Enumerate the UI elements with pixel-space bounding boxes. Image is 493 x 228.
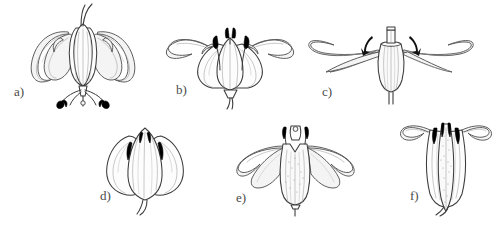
lobe-left [400,126,430,140]
anther-center-left [225,28,229,38]
panel-e-drawing [228,118,363,218]
panel-label-a: a) [14,84,24,100]
stigma [293,127,298,132]
anther-right [102,101,109,109]
anther-center-right [232,28,236,38]
panel-b: b) [160,8,300,110]
panel-a-drawing [8,2,158,110]
panel-label-d: d) [100,188,111,204]
pedicel [137,200,143,214]
anther-right [244,36,249,49]
receptacle [291,205,300,209]
panel-label-c: c) [322,84,332,100]
pedicel [227,98,230,109]
receptacle [224,90,237,98]
stigma-knob [81,101,85,105]
botanical-figure: a) [0,0,493,228]
anther-left [213,36,218,49]
panel-d: d) [85,118,205,218]
panel-label-f: f) [410,188,419,204]
panel-a: a) [8,2,158,110]
anther-left [57,101,64,109]
panel-c: c) [300,14,482,106]
receptacle [79,86,87,96]
panel-label-b: b) [176,82,187,98]
lobe-right [462,126,492,140]
panel-f: f) [398,110,493,216]
pedicel-2 [232,98,233,109]
panel-e: e) [228,118,363,218]
panel-label-e: e) [236,190,246,206]
stigma [387,27,395,30]
